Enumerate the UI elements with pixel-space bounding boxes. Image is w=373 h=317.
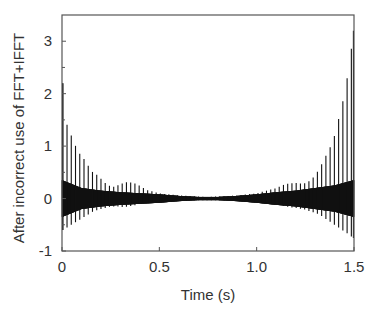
x-tick-label: 1.0 [246, 258, 267, 275]
x-tick-label: 0 [58, 258, 66, 275]
plot-area [62, 31, 354, 238]
y-axis-title: After incorrect use of FFT+IFFT [10, 33, 27, 243]
axes-box [62, 15, 354, 251]
y-tick-label: 2 [44, 85, 52, 102]
chart: -10123 00.51.01.5 Time (s) After incorre… [0, 0, 373, 317]
x-axis-title: Time (s) [181, 286, 235, 303]
y-tick-label: 1 [44, 137, 52, 154]
x-tick-label: 1.5 [344, 258, 365, 275]
y-tick-label: -1 [39, 242, 52, 259]
y-tick-label: 0 [44, 190, 52, 207]
y-tick-label: 3 [44, 32, 52, 49]
x-tick-label: 0.5 [149, 258, 170, 275]
signal-carrier [62, 180, 354, 217]
